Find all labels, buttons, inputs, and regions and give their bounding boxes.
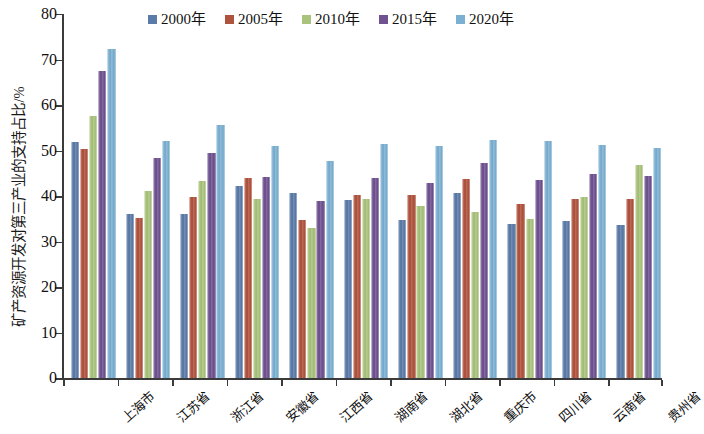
- y-tick-label: 10: [41, 323, 57, 343]
- bar-湖南省-2020年: [380, 144, 388, 379]
- plot-area: 01020304050607080: [62, 14, 662, 380]
- bar-贵州省-2010年: [635, 165, 643, 378]
- bar-上海市-2005年: [80, 149, 88, 378]
- bar-group-重庆市: [453, 14, 498, 378]
- bar-重庆市-2020年: [489, 140, 497, 379]
- bar-浙江省-2010年: [198, 181, 206, 378]
- bar-云南省-2015年: [589, 174, 597, 378]
- bar-group-江苏省: [126, 14, 171, 378]
- bar-重庆市-2005年: [462, 179, 470, 378]
- bar-云南省-2000年: [562, 221, 570, 378]
- x-category-label-重庆市: 重庆市: [499, 386, 541, 426]
- bar-江苏省-2005年: [135, 218, 143, 378]
- bar-group-四川省: [507, 14, 552, 378]
- y-tick-label: 50: [41, 141, 57, 161]
- bar-上海市-2000年: [71, 142, 79, 378]
- bar-湖北省-2000年: [398, 220, 406, 378]
- x-category-label-上海市: 上海市: [117, 386, 159, 426]
- bar-江西省-2010年: [307, 228, 315, 378]
- bar-湖南省-2015年: [371, 178, 379, 378]
- bar-云南省-2010年: [580, 197, 588, 378]
- bar-group-云南省: [562, 14, 607, 378]
- x-category-label-湖南省: 湖南省: [390, 386, 432, 426]
- bar-贵州省-2005年: [626, 199, 634, 378]
- bar-江西省-2015年: [316, 201, 324, 378]
- y-tick-label: 70: [41, 50, 57, 70]
- y-tick-label: 80: [41, 4, 57, 24]
- bar-group-湖南省: [344, 14, 389, 378]
- x-tick-mark: [661, 380, 663, 386]
- bar-安徽省-2005年: [244, 178, 252, 379]
- x-tick-mark: [172, 380, 174, 386]
- bar-湖北省-2010年: [416, 206, 424, 378]
- y-axis-title: 矿产资源开发对第三产业的支持占比/%: [7, 27, 28, 387]
- x-axis-line: [62, 378, 662, 380]
- bar-江西省-2005年: [298, 220, 306, 378]
- x-tick-mark: [390, 380, 392, 386]
- bar-浙江省-2020年: [216, 125, 224, 378]
- bar-group-上海市: [71, 14, 116, 378]
- bar-湖南省-2010年: [362, 199, 370, 378]
- bar-江苏省-2015年: [153, 158, 161, 378]
- bar-上海市-2020年: [107, 49, 115, 378]
- bar-四川省-2005年: [516, 204, 524, 379]
- x-tick-mark: [445, 380, 447, 386]
- x-tick-mark: [63, 380, 65, 386]
- bar-安徽省-2020年: [271, 146, 279, 378]
- bar-湖南省-2005年: [353, 195, 361, 379]
- bar-江苏省-2010年: [144, 191, 152, 379]
- bar-group-贵州省: [616, 14, 661, 378]
- y-tick-label: 20: [41, 277, 57, 297]
- bar-重庆市-2015年: [480, 163, 488, 378]
- bar-group-安徽省: [235, 14, 280, 378]
- y-tick-label: 60: [41, 95, 57, 115]
- x-category-label-安徽省: 安徽省: [281, 386, 323, 426]
- bar-贵州省-2000年: [616, 225, 624, 379]
- x-category-label-湖北省: 湖北省: [445, 386, 487, 426]
- bar-安徽省-2010年: [253, 199, 261, 378]
- bar-group-江西省: [289, 14, 334, 378]
- x-tick-mark: [336, 380, 338, 386]
- bar-四川省-2015年: [535, 180, 543, 378]
- x-category-label-江苏省: 江苏省: [172, 386, 214, 426]
- bar-浙江省-2005年: [189, 197, 197, 379]
- bar-四川省-2020年: [544, 141, 552, 379]
- x-tick-mark: [118, 380, 120, 386]
- bar-湖南省-2000年: [344, 200, 352, 378]
- bar-云南省-2005年: [571, 199, 579, 378]
- bar-上海市-2015年: [98, 71, 106, 378]
- bar-云南省-2020年: [598, 145, 606, 378]
- bar-重庆市-2010年: [471, 212, 479, 378]
- y-tick-label: 0: [49, 368, 57, 388]
- bar-湖北省-2020年: [435, 146, 443, 378]
- x-tick-mark: [554, 380, 556, 386]
- bar-四川省-2000年: [507, 224, 515, 378]
- bar-浙江省-2000年: [180, 214, 188, 379]
- y-axis-line: [62, 14, 64, 380]
- bar-贵州省-2015年: [644, 176, 652, 379]
- x-tick-mark: [499, 380, 501, 386]
- bar-重庆市-2000年: [453, 193, 461, 379]
- bar-安徽省-2000年: [235, 186, 243, 378]
- bar-浙江省-2015年: [207, 153, 215, 378]
- bar-江苏省-2020年: [162, 141, 170, 379]
- bar-贵州省-2020年: [653, 148, 661, 378]
- bar-湖北省-2015年: [426, 183, 434, 378]
- bar-江苏省-2000年: [126, 214, 134, 378]
- bar-湖北省-2005年: [407, 195, 415, 378]
- x-tick-mark: [227, 380, 229, 386]
- y-tick-label: 40: [41, 186, 57, 206]
- bar-group-湖北省: [398, 14, 443, 378]
- x-category-label-四川省: 四川省: [554, 386, 596, 426]
- x-category-label-云南省: 云南省: [608, 386, 650, 426]
- x-tick-mark: [608, 380, 610, 386]
- x-category-label-江西省: 江西省: [335, 386, 377, 426]
- x-category-label-浙江省: 浙江省: [226, 386, 268, 426]
- x-tick-mark: [281, 380, 283, 386]
- bar-四川省-2010年: [526, 219, 534, 378]
- bar-group-浙江省: [180, 14, 225, 378]
- bar-江西省-2000年: [289, 193, 297, 378]
- y-tick-label: 30: [41, 232, 57, 252]
- bar-上海市-2010年: [89, 116, 97, 379]
